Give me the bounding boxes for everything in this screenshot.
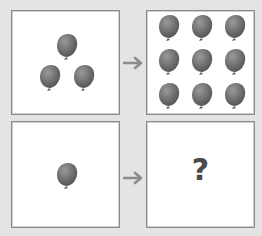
input-panel-row-2 [11, 121, 120, 228]
balloon-icon [72, 63, 96, 93]
balloon-icon [223, 81, 247, 111]
output-panel-row-1 [146, 10, 255, 115]
question-mark: ? [147, 152, 254, 187]
answer-panel-row-2: ? [146, 121, 255, 228]
balloon-icon [38, 63, 62, 93]
arrow-right-icon [123, 171, 145, 185]
balloon-icon [55, 32, 79, 62]
balloon-icon [157, 47, 181, 77]
balloon-icon [190, 47, 214, 77]
balloon-icon [190, 13, 214, 43]
balloon-icon [55, 161, 79, 191]
balloon-icon [157, 13, 181, 43]
balloon-icon [223, 13, 247, 43]
balloon-icon [223, 47, 247, 77]
balloon-icon [157, 81, 181, 111]
arrow-right-icon [123, 56, 145, 70]
balloon-icon [190, 81, 214, 111]
input-panel-row-1 [11, 10, 120, 115]
